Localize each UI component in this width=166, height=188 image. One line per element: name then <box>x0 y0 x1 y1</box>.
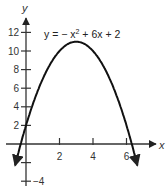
y-axis-label: y <box>21 2 29 14</box>
y-ticks: −424681012 <box>8 27 45 187</box>
parabola-chart: −424681012 246 y x y = − x2 + 6x + 2 <box>0 0 166 188</box>
x-ticks: 246 <box>57 138 130 162</box>
svg-text:4: 4 <box>13 101 19 112</box>
svg-text:8: 8 <box>13 64 19 75</box>
svg-text:4: 4 <box>90 151 96 162</box>
parabola-curve <box>15 42 137 166</box>
svg-text:2: 2 <box>57 151 63 162</box>
svg-text:12: 12 <box>8 27 20 38</box>
svg-text:−4: −4 <box>33 176 45 187</box>
equation-label: y = − x2 + 6x + 2 <box>44 28 120 40</box>
svg-text:6: 6 <box>124 151 130 162</box>
svg-text:2: 2 <box>13 120 19 131</box>
svg-text:6: 6 <box>13 83 19 94</box>
x-axis-label: x <box>158 139 165 151</box>
svg-text:10: 10 <box>8 46 20 57</box>
